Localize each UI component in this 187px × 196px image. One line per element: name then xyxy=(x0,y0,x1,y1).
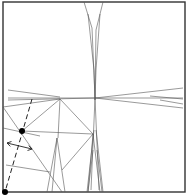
crease-line xyxy=(93,134,100,192)
crease-line xyxy=(95,88,183,98)
crease-line xyxy=(8,98,95,100)
crease-line xyxy=(47,138,57,192)
crease-line xyxy=(96,130,103,192)
crease-line xyxy=(95,98,99,190)
crease-line xyxy=(58,99,60,138)
crease-line xyxy=(60,99,93,134)
crease-lines xyxy=(3,2,183,192)
crease-line xyxy=(62,134,93,170)
crease-pattern-diagram xyxy=(0,0,187,196)
crease-line xyxy=(57,138,65,192)
arrow-head xyxy=(7,142,11,143)
crease-line xyxy=(95,98,183,108)
reference-dot xyxy=(19,128,25,134)
reference-dot xyxy=(2,189,8,195)
arrow-head xyxy=(28,149,32,150)
crease-line xyxy=(88,14,94,70)
crease-line xyxy=(96,2,103,30)
crease-line xyxy=(150,96,183,99)
crease-line xyxy=(160,100,183,104)
crease-line xyxy=(8,90,60,97)
crease-line xyxy=(6,165,50,172)
crease-line xyxy=(22,131,93,134)
